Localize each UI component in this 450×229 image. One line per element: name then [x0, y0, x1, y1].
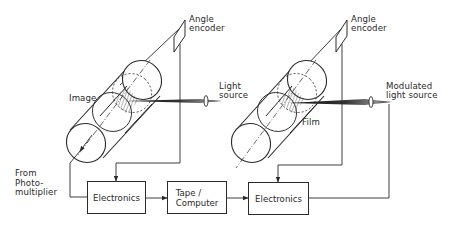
left-angle-encoder-label: Angle encoder: [189, 15, 225, 33]
right-lens-icon: [369, 97, 373, 108]
modulated-light-source-label: Modulated light source: [386, 82, 438, 100]
left-lens-icon: [204, 96, 208, 107]
right-drum-bottom: [223, 115, 278, 170]
left-angle-encoder-icon: [174, 20, 185, 52]
modulation-signal-line: [308, 104, 389, 198]
right-electronics-label: Electronics: [255, 194, 302, 204]
left-electronics-box: Electronics: [87, 181, 146, 214]
light-source-label: Light source: [219, 82, 248, 100]
left-scanner: [58, 20, 222, 197]
image-label: Image: [69, 94, 96, 103]
left-electronics-label: Electronics: [93, 193, 140, 203]
from-photomultiplier-label: From Photo- multiplier: [15, 169, 57, 198]
right-angle-encoder-icon: [336, 20, 347, 52]
right-angle-encoder-label: Angle encoder: [351, 15, 387, 33]
right-scanner: [223, 20, 392, 198]
film-label: Film: [302, 118, 320, 127]
right-electronics-box: Electronics: [248, 182, 309, 215]
tape-computer-label: Tape / Computer: [176, 188, 219, 208]
tape-computer-box: Tape / Computer: [167, 181, 227, 214]
